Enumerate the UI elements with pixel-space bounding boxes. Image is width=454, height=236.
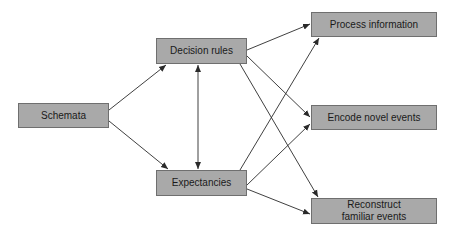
node-encode-novel-events: Encode novel events <box>311 105 437 130</box>
node-schemata: Schemata <box>18 103 109 128</box>
arrow-decision-rules-to-process-information <box>247 24 310 50</box>
node-decision-rules: Decision rules <box>156 38 247 64</box>
node-process-information: Process information <box>311 12 437 37</box>
arrow-expectancies-to-process-information <box>240 38 319 170</box>
node-expectancies: Expectancies <box>156 170 247 196</box>
arrow-expectancies-to-encode-novel-events <box>247 124 310 185</box>
arrow-decision-rules-to-encode-novel-events <box>247 56 310 117</box>
arrow-schemata-to-expectancies <box>109 121 168 169</box>
node-reconstruct-familiar-events: Reconstruct familiar events <box>311 198 437 224</box>
arrow-expectancies-to-reconstruct-familiar-events <box>247 189 310 214</box>
arrow-schemata-to-decision-rules <box>109 65 166 110</box>
arrow-decision-rules-to-reconstruct-familiar-events <box>240 64 318 197</box>
